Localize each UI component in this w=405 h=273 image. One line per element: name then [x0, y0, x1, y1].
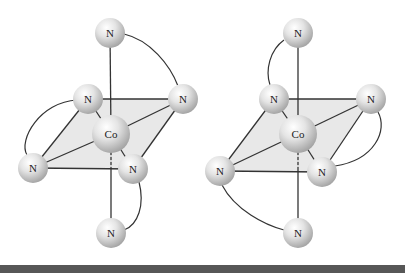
svg-text:N: N — [367, 93, 375, 105]
atom-n-upper-right: N — [356, 84, 386, 114]
atom-n-upper-left: N — [259, 84, 289, 114]
svg-text:N: N — [84, 93, 92, 105]
svg-text:N: N — [216, 165, 224, 177]
svg-text:N: N — [129, 163, 137, 175]
atom-co: Co — [279, 115, 317, 153]
atom-n-upper-left: N — [73, 84, 103, 114]
molecule-right: N N N Co N N N — [205, 18, 386, 248]
atom-n-top: N — [95, 18, 125, 48]
molecule-left: N N N Co N N N — [18, 18, 198, 248]
svg-text:N: N — [294, 227, 302, 239]
atom-n-lower-right: N — [118, 154, 148, 184]
atom-n-top: N — [283, 18, 313, 48]
atom-n-bottom: N — [96, 218, 126, 248]
atom-n-bottom: N — [283, 218, 313, 248]
svg-text:Co: Co — [292, 128, 305, 140]
svg-text:N: N — [270, 93, 278, 105]
svg-text:N: N — [318, 166, 326, 178]
atom-n-lower-left: N — [205, 156, 235, 186]
svg-text:N: N — [179, 93, 187, 105]
atom-n-lower-right: N — [307, 157, 337, 187]
atom-co: Co — [92, 115, 130, 153]
svg-text:N: N — [29, 162, 37, 174]
svg-text:N: N — [294, 27, 302, 39]
bottom-bar — [0, 265, 405, 273]
atom-n-upper-right: N — [168, 84, 198, 114]
svg-text:Co: Co — [105, 128, 118, 140]
svg-text:N: N — [106, 27, 114, 39]
svg-text:N: N — [107, 227, 115, 239]
atom-n-lower-left: N — [18, 153, 48, 183]
diagram-canvas: N N N Co N N N — [0, 0, 405, 265]
